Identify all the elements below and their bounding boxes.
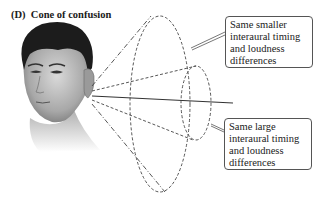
outer-cone bbox=[92, 16, 190, 192]
callout-large-differences: Same large interaural timing and loudnes… bbox=[224, 118, 312, 170]
interaural-axis bbox=[92, 96, 233, 103]
head-illustration bbox=[21, 22, 100, 152]
callout-line: Same large bbox=[229, 121, 307, 133]
callout-line: Same smaller bbox=[230, 19, 308, 31]
ear bbox=[84, 69, 94, 98]
callout-line: differences bbox=[229, 157, 307, 169]
callout-line: differences bbox=[230, 55, 308, 67]
inner-cone bbox=[92, 66, 211, 140]
callout-line: and loudness bbox=[229, 145, 307, 157]
callout-smaller-differences: Same smaller interaural timing and loudn… bbox=[225, 16, 313, 68]
callout-line: interaural timing bbox=[229, 133, 307, 145]
callout-line: and loudness bbox=[230, 43, 308, 55]
callout-line: interaural timing bbox=[230, 31, 308, 43]
leader-lines bbox=[191, 32, 225, 132]
